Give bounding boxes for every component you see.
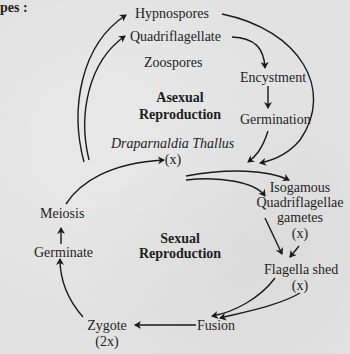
arrow-quadriflagellate-to-encystment	[232, 37, 265, 68]
node-flagella-ploidy: (x)	[285, 278, 315, 293]
arrow-gametes-to-flagella-2	[290, 246, 299, 257]
node-fusion: Fusion	[197, 318, 235, 333]
cycle-arrows	[0, 0, 350, 354]
thallus-ploidy: (x)	[158, 152, 188, 167]
arrow-flagella-to-fusion-2	[220, 293, 300, 318]
sexual-title-line2: Reproduction	[130, 246, 230, 261]
header-fragment: pes :	[0, 0, 28, 15]
node-quadriflagellate: Quadriflagellate	[130, 29, 221, 44]
sexual-title-line1: Sexual	[130, 231, 230, 246]
node-hypnospores: Hypnospores	[135, 6, 209, 21]
node-flagella-shed: Flagella shed	[264, 262, 338, 277]
arrow-meiosis-to-thallus	[66, 160, 164, 204]
asexual-title-line1: Asexual	[130, 90, 230, 105]
arrow-zygote-to-germinate	[60, 259, 83, 317]
node-gametes-ploidy: (x)	[250, 226, 350, 241]
arrow-germination-to-thallus	[248, 131, 268, 162]
node-germination: Germination	[240, 112, 311, 127]
node-encystment: Encystment	[240, 70, 306, 85]
asexual-title-line2: Reproduction	[130, 107, 230, 122]
node-germinate: Germinate	[34, 245, 93, 260]
node-gametes-line3: gametes	[250, 210, 350, 225]
node-gametes-line2: Quadriflagellae	[250, 195, 350, 210]
thallus-name: Draparnaldia Thallus	[111, 136, 234, 151]
node-zygote: Zygote	[80, 318, 134, 333]
node-zygote-ploidy: (2x)	[80, 334, 134, 349]
arrow-flagella-to-fusion-1	[212, 278, 275, 316]
node-zoospores: Zoospores	[144, 55, 202, 70]
node-meiosis: Meiosis	[40, 206, 84, 221]
node-gametes-line1: Isogamous	[250, 180, 350, 195]
